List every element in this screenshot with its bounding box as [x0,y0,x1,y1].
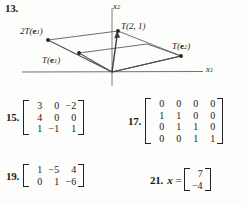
matrix-cell: 1 [28,164,45,176]
matrix-cell: −1 [45,123,62,135]
problem-21-assignment: x = [167,174,181,186]
matrix-cell: 1 [28,123,45,135]
point-dot-2Te1 [46,38,50,42]
edge-origin-to-Te2 [112,56,181,72]
problem-17-number: 17. [128,115,141,127]
matrix-cell: 1 [184,133,201,145]
matrix-cell: 0 [45,100,62,112]
matrix-row: 1 −5 4 [28,164,79,176]
problem-21-matrix: 7 −4 [184,168,211,191]
problem-17-matrix: 0 0 0 0 1 1 0 0 0 1 1 0 0 [145,98,223,144]
matrix-cell: −4 [189,180,206,192]
matrix-cell: 3 [28,100,45,112]
matrix-row: 3 0 −2 [28,100,79,112]
problem-15: 15. 3 0 −2 4 0 0 1 −1 1 [6,100,84,135]
problem-21-number: 21. [150,174,163,186]
bracket-left [23,100,28,135]
matrix-row: 4 0 0 [28,112,79,124]
matrix-cell: 4 [62,164,79,176]
matrix-cell: −2 [62,100,79,112]
matrix-row: 0 1 −6 [28,176,79,188]
matrix-row: 7 [189,168,206,180]
problem-19: 19. 1 −5 4 0 1 −6 [6,164,84,187]
problem-13-figure-block: 13. x2 x1 2T(e1) [0,0,247,92]
bracket-right [79,100,84,135]
bracket-left [184,168,189,191]
matrix-cell: 1 [167,110,184,122]
problem-15-number: 15. [6,111,19,123]
matrix-cell: 0 [28,176,45,188]
vector-arrow-shaft [112,36,117,72]
bracket-left [23,164,28,187]
problem-17: 17. 0 0 0 0 1 1 0 0 0 1 1 [128,98,223,144]
point-dot-Te2 [179,54,183,58]
matrix-cell: −5 [45,164,62,176]
matrix-cell: 4 [28,112,45,124]
label-Te2: T(e2) [172,41,190,51]
matrix-cell: 1 [150,110,167,122]
matrix-cell: 1 [201,133,218,145]
matrix-cell: 0 [201,110,218,122]
matrix-cell: 1 [62,123,79,135]
matrix-cell: 1 [167,121,184,133]
x1-axis-label: x1 [206,64,213,74]
matrix-row: 0 0 1 1 [150,133,218,145]
matrix-row: 0 1 1 0 [150,121,218,133]
problem-19-matrix: 1 −5 4 0 1 −6 [23,164,84,187]
bracket-left [145,98,150,144]
matrix-cell: 0 [167,133,184,145]
matrix-cell: 1 [184,121,201,133]
matrix-cell: 0 [167,98,184,110]
matrix-cell: 0 [150,121,167,133]
edge-origin-to-Te1 [79,53,112,72]
matrix-cell: 0 [184,98,201,110]
linear-transformation-diagram [0,0,247,92]
matrix-cell: −6 [62,176,79,188]
matrix-row: 1 1 0 0 [150,110,218,122]
matrix-cell: 0 [45,112,62,124]
matrix-row: 0 0 0 0 [150,98,218,110]
problem-21: 21. x = 7 −4 [150,168,211,191]
matrix-cell: 0 [201,121,218,133]
answer-page: 13. x2 x1 2T(e1) [0,0,247,205]
matrix-cell: 0 [150,98,167,110]
equals-sign: = [173,174,182,186]
matrix-cell: 7 [189,168,206,180]
problem-15-matrix: 3 0 −2 4 0 0 1 −1 1 [23,100,84,135]
matrix-row: −4 [189,180,206,192]
x2-axis-label: x2 [113,1,120,11]
label-T21: T(2, 1) [121,21,146,31]
problem-19-number: 19. [6,170,19,182]
matrix-cell: 1 [45,176,62,188]
label-Te1: T(e1) [42,55,60,65]
matrix-row: 1 −1 1 [28,123,79,135]
bracket-right [206,168,211,191]
bracket-right [79,164,84,187]
bracket-right [218,98,223,144]
label-2Te1: 2T(e1) [20,26,43,36]
point-dot-Te1 [77,51,81,55]
matrix-cell: 0 [62,112,79,124]
matrix-cell: 0 [201,98,218,110]
matrix-cell: 0 [184,110,201,122]
matrix-cell: 0 [150,133,167,145]
point-dot-T21 [116,29,120,33]
